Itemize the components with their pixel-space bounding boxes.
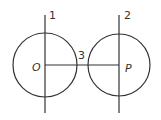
geometry-diagram: 1 2 3 O P: [0, 0, 161, 120]
label-segment-3: 3: [78, 49, 85, 62]
label-line-1: 1: [49, 9, 56, 22]
label-center-o: O: [32, 61, 41, 74]
label-center-p: P: [125, 62, 132, 75]
label-line-2: 2: [124, 9, 131, 22]
